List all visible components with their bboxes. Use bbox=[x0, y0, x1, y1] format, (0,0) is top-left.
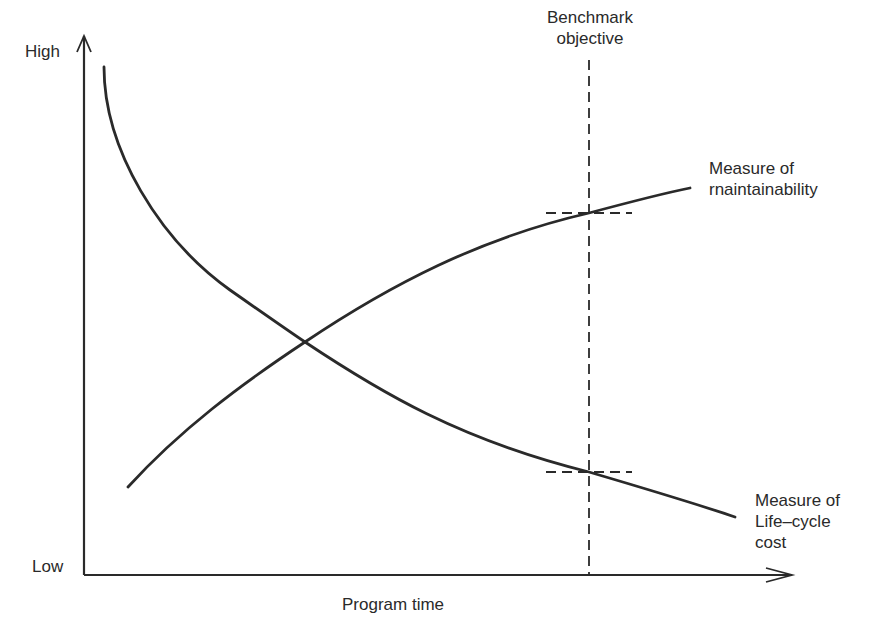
benchmark-label: Benchmark objective bbox=[540, 7, 640, 49]
y-high-label: High bbox=[25, 41, 60, 62]
cost-label-line1: Measure of bbox=[755, 490, 840, 511]
maintainability-curve bbox=[128, 188, 690, 487]
benchmark-label-line2: objective bbox=[540, 28, 640, 49]
cost-label-line2: Life–cycle bbox=[755, 511, 840, 532]
cost-label-line3: cost bbox=[755, 532, 840, 553]
benchmark-label-line1: Benchmark bbox=[540, 7, 640, 28]
maintainability-label: Measure of rnaintainability bbox=[709, 158, 818, 200]
y-low-label: Low bbox=[32, 556, 63, 577]
cost-label: Measure of Life–cycle cost bbox=[755, 490, 840, 553]
x-axis-label: Program time bbox=[342, 594, 444, 615]
maintainability-label-line1: Measure of bbox=[709, 158, 818, 179]
chart-canvas bbox=[0, 0, 878, 626]
cost-curve bbox=[104, 67, 735, 517]
maintainability-label-line2: rnaintainability bbox=[709, 179, 818, 200]
